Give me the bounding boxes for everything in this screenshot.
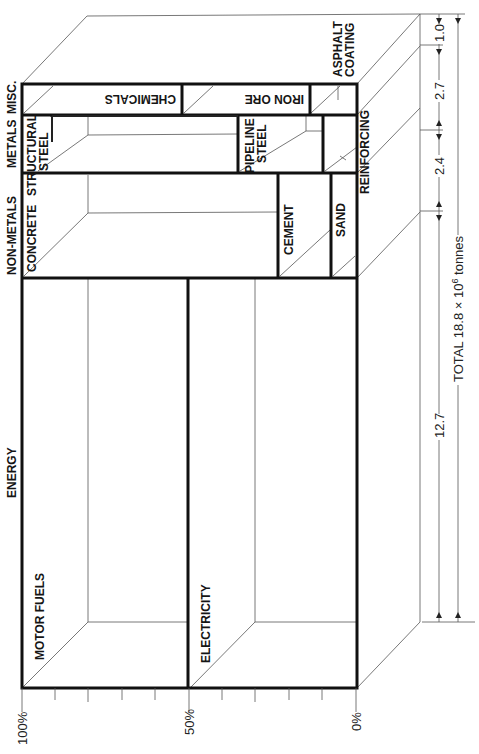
total-label: TOTAL 18.8 × 106 tonnes [450, 235, 466, 382]
item-label-sand: SAND [334, 203, 348, 237]
dim-label-metals: 2.7 [432, 82, 447, 100]
item-label-electricity: ELECTRICITY [199, 584, 213, 663]
nonmetals-depth-lines [24, 175, 355, 276]
item-label-chemicals: CHEMICALS [105, 92, 176, 106]
front-face-outlines [22, 84, 357, 688]
percent-axis [22, 688, 356, 712]
item-label-cement: CEMENT [282, 204, 296, 255]
dim-label-energy: 12.7 [432, 413, 447, 438]
item-label-concrete: CONCRETE [25, 205, 39, 272]
item-label-motor-fuels: MOTOR FUELS [33, 573, 47, 660]
group-label-metals: METALS [5, 120, 19, 168]
item-label-structural-2: STEEL [37, 132, 51, 171]
item-label-iron-ore: IRON ORE [245, 92, 304, 106]
tick-label-100: 100% [15, 711, 30, 745]
energy-materials-diagram: MISC. METALS NON-METALS ENERGY CHEMICALS… [0, 0, 479, 754]
dim-label-misc: 1.0 [432, 24, 447, 42]
tick-label-50: 50% [182, 709, 197, 735]
group-label-non-metals: NON-METALS [5, 196, 19, 275]
item-label-reinforcing: REINFORCING [358, 110, 372, 194]
group-label-misc: MISC. [5, 81, 19, 114]
tick-label-0: 0% [349, 712, 364, 731]
item-label-pipeline-2: STEEL [255, 124, 269, 163]
dim-label-nonmetals: 2.4 [432, 157, 447, 175]
metals-depth-lines [38, 115, 357, 171]
group-label-energy: ENERGY [5, 447, 19, 498]
item-label-asphalt-2: COATING [343, 23, 357, 77]
